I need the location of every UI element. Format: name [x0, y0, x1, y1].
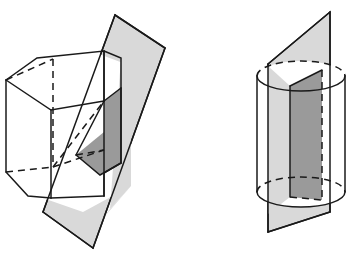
left-panel-hexagonal-prism — [6, 15, 165, 248]
plane-visible-through-cylinder-left — [268, 66, 290, 214]
right-panel-cylinder — [257, 12, 345, 232]
geometry-figure-canvas — [0, 0, 347, 257]
